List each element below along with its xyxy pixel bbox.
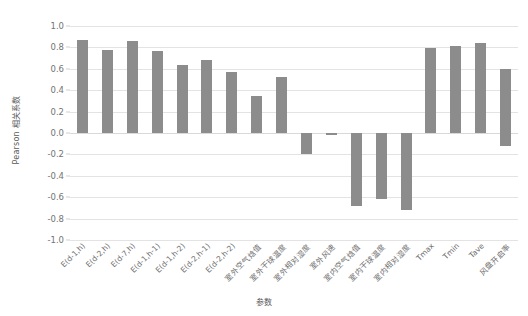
y-tick-label: 0.4 — [50, 85, 64, 95]
y-axis-title: Pearson 相关系数 — [10, 30, 24, 230]
x-tick-label-text: Tave — [467, 240, 487, 260]
y-tick-label: 0.8 — [50, 42, 64, 52]
y-tick-label: 1.0 — [50, 21, 64, 31]
x-tick-label-text: Tmin — [441, 240, 462, 261]
bar — [177, 65, 188, 133]
pearson-correlation-bar-chart: Pearson 相关系数 1.00.80.60.40.20.0-0.2-0.4-… — [0, 0, 528, 316]
bar — [226, 72, 237, 133]
bar — [450, 46, 461, 133]
y-tick-label: -0.6 — [47, 192, 64, 202]
y-tick-label: 0.0 — [50, 128, 64, 138]
bar — [152, 51, 163, 133]
y-tick-label: -1.0 — [47, 235, 64, 245]
bar — [425, 48, 436, 133]
y-tick-label: 0.6 — [50, 64, 64, 74]
bar — [351, 133, 362, 206]
bar — [326, 133, 337, 135]
y-tick-label: -0.8 — [47, 214, 64, 224]
bar — [276, 77, 287, 133]
x-axis-tick-labels: E(d-1,h)E(d-2,h)E(d-7,h)E(d-1,h-1)E(d-1,… — [70, 240, 518, 300]
x-axis-title: 参数 — [0, 296, 528, 307]
y-tick-label: -0.4 — [47, 171, 64, 181]
bar — [77, 40, 88, 133]
bar — [376, 133, 387, 199]
bar — [500, 69, 511, 146]
y-tick-label: 0.2 — [50, 107, 64, 117]
bar — [127, 41, 138, 133]
y-tick-label: -0.2 — [47, 149, 64, 159]
bar — [401, 133, 412, 210]
bar — [475, 43, 486, 133]
bar — [102, 50, 113, 133]
bar — [201, 60, 212, 133]
bar — [301, 133, 312, 154]
bar — [251, 96, 262, 133]
